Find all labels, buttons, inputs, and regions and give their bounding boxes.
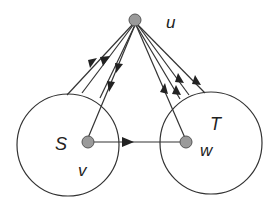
- label-w: w: [200, 141, 214, 160]
- node-u: [129, 14, 141, 26]
- node-v: [82, 136, 94, 148]
- label-v: v: [78, 161, 88, 180]
- set-S-circle: [17, 94, 119, 196]
- label-T: T: [210, 114, 223, 134]
- flow-diagram: u S T v w: [0, 0, 278, 207]
- arrowhead-v-to-w: [122, 137, 134, 147]
- label-u: u: [166, 13, 176, 32]
- node-w: [180, 136, 192, 148]
- label-S: S: [55, 134, 67, 154]
- edges-u-to-S: [67, 24, 135, 138]
